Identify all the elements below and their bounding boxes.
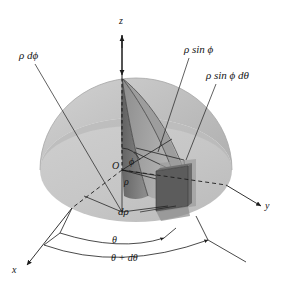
- spherical-coordinates-figure: z y x O ϕ ρ ρ dϕ ρ sin ϕ ρ sin ϕ dθ dρ θ…: [0, 0, 283, 290]
- y-axis-label: y: [265, 201, 269, 211]
- element-side-face: [188, 163, 192, 206]
- theta-arc-tick-left2: [44, 233, 60, 245]
- theta-arc-tick-right: [164, 228, 176, 238]
- x-axis-line: [27, 208, 72, 265]
- theta-arc-tick-right2: [208, 240, 246, 262]
- y-axis-line: [226, 185, 261, 206]
- theta-label: θ: [112, 235, 117, 245]
- diagram-canvas: [0, 0, 283, 290]
- theta-plus-dtheta-label: θ + dθ: [111, 253, 138, 263]
- origin-label: O: [112, 161, 119, 171]
- phi-angle-label: ϕ: [129, 157, 134, 167]
- x-axis-label: x: [12, 265, 16, 275]
- rho-sin-phi-label: ρ sin ϕ: [184, 44, 213, 55]
- rho-sin-phi-dtheta-label: ρ sin ϕ dθ: [206, 70, 249, 81]
- element-front-face: [156, 166, 188, 211]
- rho-label: ρ: [124, 177, 129, 187]
- rho-dphi-label: ρ dϕ: [19, 50, 38, 61]
- drho-label: dρ: [118, 206, 129, 217]
- theta-arc-connector: [196, 216, 208, 240]
- z-axis-label: z: [119, 16, 123, 26]
